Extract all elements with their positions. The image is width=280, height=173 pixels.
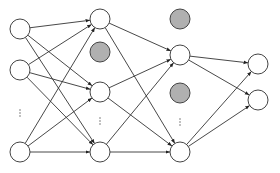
ellipsis-dot-input: [19, 112, 20, 113]
edge-i0-h0: [30, 20, 90, 28]
node-output-o0: [248, 54, 268, 74]
neural-network-diagram: [0, 0, 280, 173]
ellipsis-dot-hidden2: [179, 124, 180, 125]
ellipsis-dot-input: [19, 115, 20, 116]
edge-g3-o1: [188, 106, 249, 147]
ellipsis-dot-hidden2: [179, 118, 180, 119]
node-input-i1: [10, 60, 30, 80]
edge-i1-h0: [28, 24, 91, 64]
edge-g1-o0: [190, 56, 248, 63]
dropped-node-hidden2-g2: [170, 83, 190, 103]
edge-g1-o1: [189, 60, 250, 95]
node-hidden2-g3: [170, 142, 190, 162]
ellipsis-markers: [19, 109, 180, 125]
node-hidden1-h2: [90, 82, 110, 102]
ellipsis-dot-hidden1: [99, 123, 100, 124]
edge-i1-h2: [30, 73, 91, 90]
edge-i0-h3: [25, 37, 94, 143]
node-hidden1-h0: [90, 9, 110, 29]
node-input-i2: [10, 142, 30, 162]
edge-h3-g1: [106, 63, 173, 145]
edge-h0-g3: [105, 28, 175, 144]
connection-edges: [25, 20, 251, 152]
node-hidden1-h3: [90, 142, 110, 162]
ellipsis-dot-hidden2: [179, 121, 180, 122]
dropped-node-hidden1-h1: [90, 42, 110, 62]
ellipsis-dot-hidden1: [99, 117, 100, 118]
ellipsis-dot-hidden1: [99, 120, 100, 121]
edge-h2-g1: [109, 59, 171, 88]
edge-i0-h2: [28, 35, 92, 86]
network-nodes: [10, 9, 268, 162]
node-hidden2-g1: [170, 45, 190, 65]
edge-g3-o0: [187, 71, 252, 144]
ellipsis-dot-input: [19, 109, 20, 110]
edge-h0-g1: [109, 23, 171, 51]
dropped-node-hidden2-g0: [170, 9, 190, 29]
node-input-i0: [10, 19, 30, 39]
node-output-o1: [248, 90, 268, 110]
